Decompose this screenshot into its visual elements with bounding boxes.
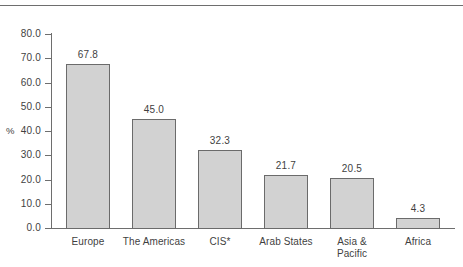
category-label-cis: CIS* (182, 236, 258, 248)
y-tick-label-20-0: 20.0 (21, 174, 41, 185)
bar-value-label-arab-states: 21.7 (251, 160, 321, 171)
y-tick-label-60-0: 60.0 (21, 77, 41, 88)
y-tick-label-30-0: 30.0 (21, 149, 41, 160)
bar-africa[interactable] (396, 218, 440, 229)
bar-value-label-asia-pacific: 20.5 (317, 163, 387, 174)
y-tick-label-80-0: 80.0 (21, 28, 41, 39)
y-tick-30-0 (45, 155, 51, 156)
category-label-africa: Africa (380, 236, 456, 248)
y-tick-label-40-0: 40.0 (21, 125, 41, 136)
x-axis-line (51, 228, 455, 229)
category-label-line: The Americas (123, 236, 185, 247)
bar-value-label-the-americas: 45.0 (119, 104, 189, 115)
category-label-line: Arab States (259, 236, 312, 247)
bar-cis[interactable] (198, 150, 242, 229)
category-label-europe: Europe (50, 236, 126, 248)
y-tick-20-0 (45, 180, 51, 181)
category-label-line: Asia & (337, 236, 367, 247)
y-tick-70-0 (45, 58, 51, 59)
category-label-line: Pacific (314, 248, 390, 260)
bar-asia-pacific[interactable] (330, 178, 374, 229)
bar-the-americas[interactable] (132, 119, 176, 229)
y-axis-line (51, 33, 52, 229)
category-label-asia-pacific: Asia &Pacific (314, 236, 390, 260)
y-tick-50-0 (45, 107, 51, 108)
y-tick-40-0 (45, 131, 51, 132)
bar-value-label-europe: 67.8 (53, 49, 123, 60)
y-tick-label-10-0: 10.0 (21, 198, 41, 209)
bar-europe[interactable] (66, 64, 110, 229)
y-tick-80-0 (45, 34, 51, 35)
category-label-line: Europe (72, 236, 105, 247)
category-label-the-americas: The Americas (116, 236, 192, 248)
bar-chart-plot-area: 80.070.060.050.040.030.020.010.00.0 % 67… (0, 0, 463, 267)
y-tick-label-50-0: 50.0 (21, 101, 41, 112)
category-label-line: Africa (405, 236, 431, 247)
y-axis-title: % (6, 125, 14, 136)
chart-screenshot: 80.070.060.050.040.030.020.010.00.0 % 67… (0, 0, 463, 267)
bar-value-label-africa: 4.3 (383, 203, 453, 214)
category-label-line: CIS* (210, 236, 231, 247)
y-tick-60-0 (45, 83, 51, 84)
y-tick-label-70-0: 70.0 (21, 52, 41, 63)
bar-arab-states[interactable] (264, 175, 308, 229)
y-tick-label-0-0: 0.0 (26, 222, 41, 233)
y-tick-10-0 (45, 204, 51, 205)
y-tick-0-0 (45, 228, 51, 229)
bar-value-label-cis: 32.3 (185, 135, 255, 146)
category-label-arab-states: Arab States (248, 236, 324, 248)
